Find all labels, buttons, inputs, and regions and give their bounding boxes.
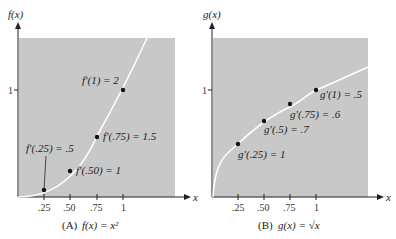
- caption-prefix-a: (A): [62, 219, 78, 232]
- svg-text:.75: .75: [283, 202, 296, 213]
- x-axis-arrow-b: [377, 194, 384, 200]
- svg-text:.50: .50: [63, 202, 76, 213]
- point-label-b-0: g′(.25) = 1: [238, 148, 285, 161]
- caption-b: g(x) = √x: [278, 219, 320, 232]
- point-label-b-3: g′(1) = .5: [320, 88, 362, 101]
- panel-a: f(x) x 1 .25 .50 .75 1 f′(.25) = .5 f′(.…: [8, 8, 198, 232]
- y-axis-label-b: g(x): [203, 8, 221, 21]
- svg-text:.25: .25: [38, 202, 51, 213]
- y-axis-arrow-a: [15, 22, 21, 29]
- caption-a: f(x) = x²: [82, 219, 119, 232]
- svg-text:1: 1: [314, 202, 319, 213]
- point-label-a-1: f′(.50) = 1: [76, 164, 121, 177]
- svg-text:1: 1: [121, 202, 126, 213]
- y-axis-label-a: f(x): [8, 8, 24, 21]
- panel-b: g(x) x 1 .25 .50 .75 1 g′(.25) = 1 g′(.5…: [202, 8, 391, 232]
- caption-prefix-b: (B): [258, 219, 273, 232]
- svg-text:.50: .50: [257, 202, 270, 213]
- svg-text:.25: .25: [232, 202, 245, 213]
- figure: f(x) x 1 .25 .50 .75 1 f′(.25) = .5 f′(.…: [0, 0, 396, 239]
- point-label-b-2: g′(.75) = .6: [290, 108, 341, 121]
- point-label-a-3: f′(1) = 2: [82, 74, 119, 87]
- y-axis-arrow-b: [209, 22, 215, 29]
- point-label-a-0: f′(.25) = .5: [26, 142, 74, 155]
- y-tick-b: 1: [202, 85, 207, 96]
- x-axis-label-b: x: [385, 191, 391, 203]
- x-axis-arrow-a: [184, 194, 191, 200]
- x-axis-label-a: x: [192, 191, 198, 203]
- point-label-b-1: g′(.5) = .7: [264, 123, 309, 136]
- point-label-a-2: f′(.75) = 1.5: [103, 130, 157, 143]
- y-tick-a: 1: [8, 85, 13, 96]
- svg-text:.75: .75: [90, 202, 103, 213]
